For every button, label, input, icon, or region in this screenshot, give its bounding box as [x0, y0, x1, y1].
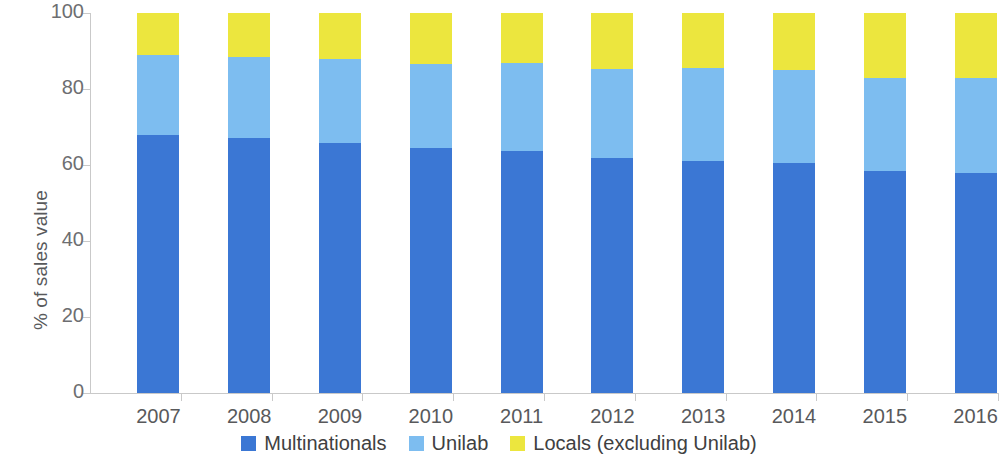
bar-segment[interactable] [501, 63, 543, 150]
legend-item[interactable]: Locals (excluding Unilab) [510, 432, 756, 455]
bar-segment[interactable] [410, 64, 452, 148]
y-tick-20: 20 [90, 317, 91, 318]
bar-group[interactable] [773, 13, 815, 393]
bar-segment[interactable] [864, 171, 906, 393]
y-tick-0: 0 [90, 393, 91, 394]
bar-segment[interactable] [955, 173, 997, 393]
bar-group[interactable] [501, 13, 543, 393]
legend-item[interactable]: Unilab [409, 432, 489, 455]
legend-label: Unilab [432, 432, 489, 455]
bar-segment[interactable] [864, 78, 906, 171]
y-tick-mark [83, 165, 90, 166]
bar-segment[interactable] [410, 13, 452, 64]
bar-segment[interactable] [137, 135, 179, 393]
y-tick-label: 40 [24, 228, 84, 251]
y-tick-40: 40 [90, 241, 91, 242]
y-tick-60: 60 [90, 165, 91, 166]
legend-item[interactable]: Multinationals [241, 432, 386, 455]
x-tick-mark [907, 393, 908, 401]
y-tick-label: 60 [24, 152, 84, 175]
legend-swatch-icon [510, 436, 525, 451]
y-tick-mark [83, 317, 90, 318]
chart-legend: MultinationalsUnilabLocals (excluding Un… [0, 432, 998, 455]
bar-segment[interactable] [955, 13, 997, 78]
bar-segment[interactable] [591, 158, 633, 393]
bar-segment[interactable] [501, 151, 543, 393]
y-tick-mark [83, 393, 90, 394]
bar-group[interactable] [137, 13, 179, 393]
bar-group[interactable] [864, 13, 906, 393]
x-tick-mark [181, 393, 182, 401]
bar-segment[interactable] [773, 13, 815, 70]
legend-label: Multinationals [264, 432, 386, 455]
bar-segment[interactable] [228, 13, 270, 57]
bar-group[interactable] [319, 13, 361, 393]
bar-group[interactable] [682, 13, 724, 393]
y-tick-label: 80 [24, 76, 84, 99]
x-axis-label-2016: 2016 [921, 405, 1003, 428]
bar-group[interactable] [591, 13, 633, 393]
bar-segment[interactable] [319, 13, 361, 59]
x-tick-mark [816, 393, 817, 401]
legend-swatch-icon [409, 436, 424, 451]
bar-group[interactable] [410, 13, 452, 393]
y-tick-label: 20 [24, 304, 84, 327]
bar-segment[interactable] [682, 13, 724, 68]
bar-segment[interactable] [137, 13, 179, 55]
bar-segment[interactable] [682, 161, 724, 393]
x-tick-mark [453, 393, 454, 401]
y-tick-100: 100 [90, 13, 91, 14]
bar-segment[interactable] [319, 143, 361, 393]
bar-segment[interactable] [955, 78, 997, 174]
legend-swatch-icon [241, 436, 256, 451]
bar-segment[interactable] [228, 138, 270, 393]
y-tick-mark [83, 13, 90, 14]
x-tick-mark [726, 393, 727, 401]
bar-segment[interactable] [773, 70, 815, 163]
x-tick-mark [635, 393, 636, 401]
bar-segment[interactable] [773, 163, 815, 393]
y-tick-mark [83, 241, 90, 242]
x-tick-mark [998, 393, 999, 401]
y-tick-mark [83, 89, 90, 90]
x-tick-mark [544, 393, 545, 401]
x-tick-mark [272, 393, 273, 401]
bar-segment[interactable] [591, 69, 633, 158]
plot-area: 020406080100 200720082009201020112012201… [90, 13, 998, 393]
y-axis-line [90, 13, 91, 393]
bar-segment[interactable] [319, 59, 361, 143]
y-tick-label: 0 [24, 380, 84, 403]
bar-segment[interactable] [228, 57, 270, 138]
bar-segment[interactable] [501, 13, 543, 63]
bar-segment[interactable] [410, 148, 452, 393]
legend-label: Locals (excluding Unilab) [533, 432, 756, 455]
y-tick-80: 80 [90, 89, 91, 90]
bar-segment[interactable] [137, 55, 179, 136]
bar-segment[interactable] [591, 13, 633, 69]
bar-segment[interactable] [682, 68, 724, 161]
x-tick-mark [362, 393, 363, 401]
bar-group[interactable] [955, 13, 997, 393]
bar-group[interactable] [228, 13, 270, 393]
y-tick-label: 100 [24, 0, 84, 23]
bar-segment[interactable] [864, 13, 906, 78]
